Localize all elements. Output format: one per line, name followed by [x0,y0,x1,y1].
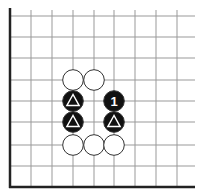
move-number-label: 1 [110,94,117,109]
white-stone [84,70,105,91]
white-stone [63,135,84,156]
board-grid [9,8,195,188]
white-stone [84,135,105,156]
go-board: 1 [0,0,199,194]
black-stone: 1 [104,91,125,112]
black-stone [63,91,84,112]
black-stone [63,112,84,133]
white-stone [63,70,84,91]
black-stone [104,112,125,133]
white-stone [104,135,125,156]
